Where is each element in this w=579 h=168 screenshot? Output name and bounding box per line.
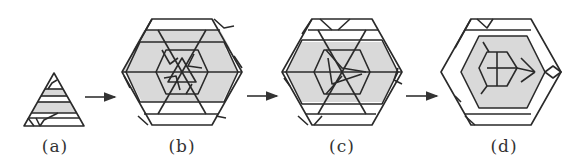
panel-d-label: (d) (490, 136, 517, 156)
panel-a-triangle (24, 73, 84, 126)
panel-d-hexagon (441, 19, 561, 125)
panel-c-hexagon (282, 19, 402, 125)
panel-a-label: (a) (42, 136, 68, 156)
tiling-sequence-figure: (a) (b) (c) (d) (0, 0, 579, 168)
panel-c-label: (c) (329, 136, 355, 156)
panel-b-label: (b) (168, 136, 195, 156)
panel-b-hexagon (122, 19, 242, 125)
